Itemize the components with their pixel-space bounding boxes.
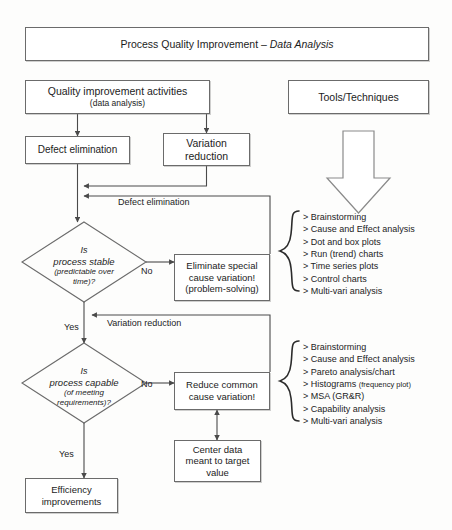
reduce-line-1: Reduce common	[186, 379, 258, 390]
node-eliminate-special-cause-variation: Eliminate special cause variation! (prob…	[174, 254, 270, 301]
decision-stable-line-4: time)?	[22, 277, 146, 287]
edge-label-yes-stable: Yes	[64, 322, 79, 332]
tools-list-item: > Cause and Effect analysis	[303, 353, 415, 365]
tools-list-item-text: > Time series plots	[303, 261, 378, 271]
tools-list-capable: > Brainstorming> Cause and Effect analys…	[303, 341, 415, 427]
center-line-2: meant to target	[186, 455, 250, 466]
tools-list-item-text: > Capability analysis	[303, 404, 385, 414]
tools-list-item: > Control charts	[303, 273, 415, 285]
center-line-3: value	[206, 467, 229, 478]
decision-capable-line-4: requirements)?	[22, 398, 146, 408]
tools-list-item: > Brainstorming	[303, 341, 415, 353]
decision-stable-line-2: process stable	[22, 256, 146, 267]
flowchart-canvas: Process Quality Improvement – Data Analy…	[0, 0, 452, 530]
decision-process-stable: Is process stable (predictable over time…	[22, 245, 146, 286]
tools-list-item: > Multi-vari analysis	[303, 415, 415, 427]
node-defect-elimination: Defect elimination	[25, 136, 130, 164]
node-quality-improvement-activities: Quality improvement activities (data ana…	[25, 80, 210, 114]
tools-list-item: > Time series plots	[303, 260, 415, 272]
tools-techniques-label: Tools/Techniques	[289, 91, 428, 104]
tools-list-item: > Brainstorming	[303, 211, 415, 223]
edge-label-variation-reduction: Variation reduction	[107, 318, 181, 328]
variation-reduction-line-2: reduction	[185, 150, 228, 162]
decision-stable-line-1: Is	[22, 245, 146, 256]
node-tools-techniques: Tools/Techniques	[288, 80, 429, 114]
tools-list-item-text: > MSA (GR&R)	[303, 391, 364, 401]
tools-list-stable: > Brainstorming> Cause and Effect analys…	[303, 211, 415, 297]
tools-list-item-text: > Run (trend) charts	[303, 249, 383, 259]
activities-line-2: (data analysis)	[29, 98, 206, 108]
chart-title-emphasis: Data Analysis	[270, 38, 334, 50]
tools-list-item-text: > Cause and Effect analysis	[303, 224, 415, 234]
tools-list-item-text: > Pareto analysis/chart	[303, 367, 395, 377]
tools-list-item: > Capability analysis	[303, 403, 415, 415]
tools-list-item-text: > Brainstorming	[303, 342, 366, 352]
edge-label-yes-capable: Yes	[59, 449, 74, 459]
node-reduce-common-cause-variation: Reduce common cause variation!	[174, 372, 270, 410]
eliminate-line-1: Eliminate special	[186, 260, 257, 271]
defect-elimination-label: Defect elimination	[26, 144, 129, 156]
eliminate-line-2: cause variation!	[189, 272, 256, 283]
tools-list-item: > Run (trend) charts	[303, 248, 415, 260]
tools-list-item-text: > Control charts	[303, 274, 367, 284]
tools-list-item-note: (frequency plot)	[359, 380, 411, 389]
tools-list-item: > Pareto analysis/chart	[303, 366, 415, 378]
edge-label-defect-elimination: Defect elimination	[118, 197, 190, 207]
tools-list-item: > Multi-vari analysis	[303, 285, 415, 297]
edge-label-no-stable: No	[141, 266, 153, 276]
decision-stable-line-3: (predictable over	[22, 267, 146, 277]
center-line-1: Center data	[193, 444, 243, 455]
reduce-line-2: cause variation!	[189, 391, 256, 402]
tools-list-item-text: > Histograms	[303, 379, 359, 389]
tools-list-item-text: > Cause and Effect analysis	[303, 354, 415, 364]
decision-capable-line-1: Is	[22, 366, 146, 377]
edge-label-no-capable: No	[141, 379, 153, 389]
tools-list-item: > Dot and box plots	[303, 236, 415, 248]
tools-list-item-text: > Multi-vari analysis	[303, 416, 382, 426]
tools-list-item-text: > Dot and box plots	[303, 237, 381, 247]
chart-title-prefix: Process Quality Improvement –	[120, 38, 269, 50]
efficiency-line-2: improvements	[42, 496, 102, 507]
node-variation-reduction: Variation reduction	[163, 133, 250, 166]
decision-capable-line-3: (of meeting	[22, 388, 146, 398]
decision-process-capable: Is process capable (of meeting requireme…	[22, 366, 146, 407]
tools-list-item: > Cause and Effect analysis	[303, 223, 415, 235]
variation-reduction-line-1: Variation	[186, 137, 227, 149]
tools-list-item-text: > Multi-vari analysis	[303, 286, 382, 296]
efficiency-line-1: Efficiency	[51, 484, 91, 495]
eliminate-line-3: (problem-solving)	[185, 283, 258, 294]
decision-capable-line-2: process capable	[22, 377, 146, 388]
tools-list-item: > Histograms (frequency plot)	[303, 378, 415, 390]
tools-list-item-text: > Brainstorming	[303, 212, 366, 222]
chart-title-box: Process Quality Improvement – Data Analy…	[25, 27, 429, 61]
node-center-data-to-target: Center data meant to target value	[174, 440, 261, 482]
tools-list-item: > MSA (GR&R)	[303, 390, 415, 402]
activities-line-1: Quality improvement activities	[48, 85, 187, 97]
node-efficiency-improvements: Efficiency improvements	[25, 478, 118, 513]
